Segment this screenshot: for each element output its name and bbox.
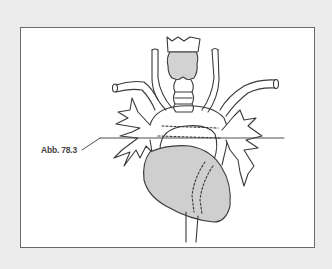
left-pulmonary-branches-icon: [114, 98, 152, 166]
right-subclavian-icon: [220, 80, 275, 116]
thyroid-icon: [167, 52, 197, 80]
larynx-icon: [167, 37, 200, 52]
heart-icon: [144, 146, 231, 222]
trachea-icon: [174, 80, 194, 112]
leader-line: [82, 138, 100, 150]
heart-vessels-diagram: [0, 0, 332, 269]
left-subclavian-icon: [116, 81, 158, 110]
figure-reference-label: Abb. 78.3: [41, 145, 77, 155]
right-carotid-icon: [202, 50, 219, 112]
right-pulmonary-branches-icon: [222, 110, 262, 186]
